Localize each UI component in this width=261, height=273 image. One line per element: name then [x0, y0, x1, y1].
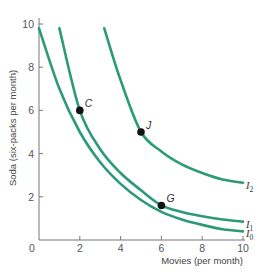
- indifference-curves: I0I1I2: [39, 28, 254, 242]
- point-label-g: G: [166, 192, 174, 204]
- y-tick-label: 2: [28, 191, 34, 203]
- point-label-c: C: [85, 97, 93, 109]
- curve-i2: [104, 28, 243, 182]
- x-tick-label: 2: [77, 242, 83, 254]
- point-g: [158, 202, 166, 210]
- x-tick-label: 10: [237, 242, 249, 254]
- y-tick-label: 4: [28, 148, 34, 160]
- y-tick-label: 10: [22, 18, 34, 30]
- point-j: [137, 128, 145, 136]
- point-c: [76, 107, 84, 115]
- x-tick-label: 6: [158, 242, 164, 254]
- data-points: CJG: [76, 97, 175, 209]
- y-tick-label: 6: [28, 104, 34, 116]
- x-axis-title: Movies (per month): [161, 255, 243, 266]
- y-tick-label: 8: [28, 61, 34, 73]
- y-axis-title: Soda (six-packs per month): [7, 70, 18, 186]
- x-tick-label: 8: [199, 242, 205, 254]
- indifference-curve-chart: 0246810246810 I0I1I2 CJG Movies (per mon…: [0, 0, 261, 273]
- point-label-j: J: [145, 119, 152, 131]
- x-tick-label: 0: [29, 242, 35, 254]
- x-tick-label: 4: [118, 242, 124, 254]
- curve-label-i2: I2: [245, 180, 254, 194]
